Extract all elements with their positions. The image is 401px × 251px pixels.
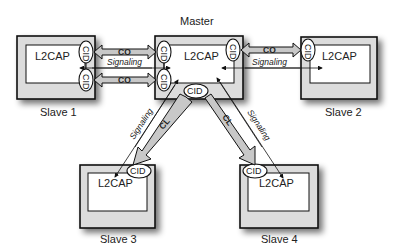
svg-text:Signaling: Signaling <box>252 57 287 67</box>
slave2-label: Slave 2 <box>325 106 362 118</box>
svg-text:CID: CID <box>246 166 262 176</box>
master-cid-bottom: CID <box>184 84 208 98</box>
svg-text:CID: CID <box>303 44 313 60</box>
svg-text:CID: CID <box>81 74 91 90</box>
master-node: L2CAP CID CID CID CID <box>155 36 243 99</box>
slave1-label: Slave 1 <box>40 106 77 118</box>
slave4-cid: CID <box>243 164 267 178</box>
co-arrow-slave1-bottom: CO <box>94 73 156 87</box>
master-cid-right: CID <box>226 39 240 61</box>
svg-text:CO: CO <box>118 75 131 85</box>
slave1-cid-bottom: CID <box>79 69 93 91</box>
svg-text:CID: CID <box>130 166 146 176</box>
svg-text:CID: CID <box>159 46 169 62</box>
master-l2cap-label: L2CAP <box>184 50 219 62</box>
slave2-l2cap-label: L2CAP <box>322 50 357 62</box>
slave4-l2cap-label: L2CAP <box>259 177 294 189</box>
slave2-cid: CID <box>301 39 315 61</box>
slave3-node: L2CAP CID Slave 3 <box>80 164 155 245</box>
svg-text:CID: CID <box>159 74 169 90</box>
svg-text:CO: CO <box>263 45 276 55</box>
slave1-cid-top: CID <box>79 41 93 63</box>
svg-text:CO: CO <box>118 47 131 57</box>
svg-text:Signaling: Signaling <box>245 108 273 143</box>
master-cid-left-bottom: CID <box>157 69 171 91</box>
l2cap-topology-diagram: L2CAP CID CID Slave 1 Master L2CAP CID C… <box>0 0 401 251</box>
svg-text:CID: CID <box>187 86 203 96</box>
svg-text:CID: CID <box>228 44 238 60</box>
svg-text:CID: CID <box>81 46 91 62</box>
slave3-cid: CID <box>127 164 151 178</box>
master-cid-left-top: CID <box>157 41 171 63</box>
slave4-node: L2CAP CID Slave 4 <box>240 164 318 245</box>
master-label: Master <box>180 15 214 27</box>
slave2-node: L2CAP CID Slave 2 <box>301 37 377 118</box>
slave1-l2cap-label: L2CAP <box>35 50 70 62</box>
slave4-label: Slave 4 <box>261 233 298 245</box>
slave3-label: Slave 3 <box>100 233 137 245</box>
svg-text:Signaling: Signaling <box>107 57 142 67</box>
cl-arrow-slave4: CL <box>205 94 255 165</box>
svg-text:Signaling: Signaling <box>127 106 155 141</box>
slave1-node: L2CAP CID CID Slave 1 <box>17 36 95 118</box>
co-arrow-slave2: CO <box>241 43 301 57</box>
slave3-l2cap-label: L2CAP <box>98 177 133 189</box>
